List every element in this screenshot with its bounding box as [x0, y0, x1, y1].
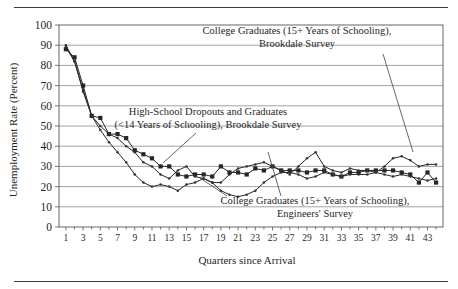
data-point-college-engineers [65, 44, 68, 47]
x-tick-label: 11 [147, 233, 156, 243]
data-point-college-brookdale [236, 170, 240, 174]
data-point-college-engineers [383, 173, 386, 176]
data-point-college-engineers [400, 173, 403, 176]
y-tick-label: 50 [41, 120, 53, 132]
data-point-highschool-brookdale [418, 165, 421, 168]
data-point-college-brookdale [417, 180, 421, 184]
data-point-college-brookdale [150, 156, 154, 160]
y-tick-label: 20 [41, 181, 53, 193]
data-point-college-engineers [73, 60, 76, 63]
data-point-college-engineers [254, 189, 257, 192]
y-tick-label: 0 [46, 221, 52, 233]
data-point-college-engineers [116, 151, 119, 154]
annotation-college-brookdale-line1: College Graduates (15+ Years of Schoolin… [203, 25, 392, 37]
x-tick-label: 13 [164, 233, 174, 243]
data-point-college-engineers [177, 189, 180, 192]
x-tick-label: 39 [388, 233, 398, 243]
data-point-highschool-brookdale [108, 133, 111, 136]
leader-highschool-brookdale [163, 133, 196, 163]
data-point-college-engineers [125, 161, 128, 164]
y-tick-labels: 0102030405060708090100 [35, 19, 53, 233]
data-point-highschool-brookdale [228, 173, 231, 176]
data-point-college-brookdale [434, 180, 438, 184]
annotation-college-engineers-line1: College Graduates (15+ Years of Schoolin… [221, 195, 410, 207]
figure-container: 0102030405060708090100 13579111315171921… [0, 0, 458, 289]
data-point-college-brookdale [210, 174, 214, 178]
y-tick-label: 80 [41, 59, 53, 71]
data-point-college-engineers [349, 173, 352, 176]
data-point-college-engineers [288, 171, 291, 174]
y-tick-label: 100 [35, 19, 53, 31]
data-point-highschool-brookdale [306, 157, 309, 160]
data-point-highschool-brookdale [323, 165, 326, 168]
data-point-college-engineers [435, 177, 438, 180]
x-tick-label: 3 [81, 233, 86, 243]
data-point-college-engineers [134, 173, 137, 176]
x-tick-label: 1 [64, 233, 69, 243]
x-tick-label: 33 [337, 233, 347, 243]
x-tick-label: 17 [199, 233, 209, 243]
data-point-highschool-brookdale [168, 177, 171, 180]
data-point-college-brookdale [141, 152, 145, 156]
data-point-college-brookdale [262, 168, 266, 172]
data-point-college-engineers [409, 175, 412, 178]
data-point-college-engineers [323, 171, 326, 174]
data-point-college-engineers [168, 185, 171, 188]
data-point-highschool-brookdale [125, 145, 128, 148]
data-point-highschool-brookdale [254, 163, 257, 166]
y-tick-label: 10 [41, 201, 53, 213]
data-point-highschool-brookdale [400, 155, 403, 158]
data-point-college-engineers [159, 183, 162, 186]
data-point-college-engineers [306, 177, 309, 180]
data-point-college-brookdale [305, 170, 309, 174]
data-point-highschool-brookdale [159, 173, 162, 176]
y-tick-label: 30 [41, 160, 53, 172]
data-point-college-engineers [332, 173, 335, 176]
data-point-college-engineers [271, 175, 274, 178]
annotation-college-engineers-line2: Engineers' Survey [277, 208, 354, 219]
data-point-highschool-brookdale [185, 165, 188, 168]
data-point-college-engineers [314, 175, 317, 178]
y-tick-label: 70 [41, 80, 53, 92]
x-tick-label: 7 [115, 233, 120, 243]
data-point-college-engineers [151, 185, 154, 188]
x-tick-label: 29 [302, 233, 312, 243]
annotation-highschool-brookdale-line2: (<14 Years of Schooling), Brookdale Surv… [114, 119, 302, 131]
x-tick-marks [66, 227, 436, 231]
annotation-college-brookdale-line2: Brookdale Survey [259, 38, 336, 49]
data-point-college-engineers [418, 177, 421, 180]
x-tick-label: 31 [319, 233, 329, 243]
x-tick-label: 5 [98, 233, 103, 243]
data-point-college-brookdale [202, 172, 206, 176]
data-point-highschool-brookdale [177, 169, 180, 172]
data-point-college-brookdale [253, 166, 257, 170]
data-point-college-engineers [426, 179, 429, 182]
data-point-highschool-brookdale [237, 167, 240, 170]
data-point-college-engineers [297, 173, 300, 176]
x-axis-title: Quarters since Arrival [198, 254, 295, 266]
data-point-college-engineers [108, 141, 111, 144]
data-point-college-brookdale [219, 164, 223, 168]
data-point-college-brookdale [245, 172, 249, 176]
y-tick-label: 90 [41, 39, 53, 51]
data-point-college-brookdale [158, 164, 162, 168]
data-point-highschool-brookdale [332, 169, 335, 172]
data-point-highschool-brookdale [383, 165, 386, 168]
y-tick-label: 40 [41, 140, 53, 152]
data-point-highschool-brookdale [151, 165, 154, 168]
data-point-college-brookdale [167, 164, 171, 168]
data-point-college-brookdale [313, 168, 317, 172]
data-point-college-engineers [185, 183, 188, 186]
annotation-highschool-brookdale-line1: High-School Dropouts and Graduates [129, 106, 287, 117]
data-point-college-brookdale [176, 172, 180, 176]
x-tick-label: 37 [371, 233, 381, 243]
x-tick-label: 35 [354, 233, 364, 243]
data-point-college-engineers [194, 181, 197, 184]
data-point-college-engineers [340, 175, 343, 178]
data-point-college-brookdale [124, 136, 128, 140]
data-point-highschool-brookdale [314, 151, 317, 154]
x-tick-label: 15 [182, 233, 192, 243]
data-point-highschool-brookdale [245, 165, 248, 168]
data-point-college-engineers [375, 171, 378, 174]
data-point-college-engineers [263, 181, 266, 184]
